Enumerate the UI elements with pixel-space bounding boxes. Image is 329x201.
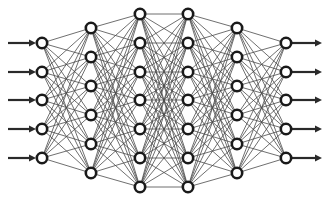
neuron-node (183, 124, 193, 134)
connection-edge (237, 129, 286, 173)
arrow-head-icon (29, 126, 36, 133)
connection-edge (91, 14, 140, 115)
neuron-node (135, 153, 145, 163)
connection-edge (188, 57, 237, 187)
input-arrow (8, 155, 36, 162)
neuron-node (281, 67, 291, 77)
connection-edge (188, 28, 237, 43)
neuron-node (183, 38, 193, 48)
connection-edge (237, 43, 286, 173)
connection-edge (42, 28, 91, 158)
connection-edge (188, 115, 237, 187)
neuron-node (135, 182, 145, 192)
connection-edge (42, 86, 91, 158)
arrow-head-icon (29, 97, 36, 104)
neuron-node (232, 139, 242, 149)
connection-edge (91, 14, 140, 86)
connection-edge (237, 100, 286, 173)
input-arrow (8, 126, 36, 133)
connection-edge (188, 86, 237, 187)
neuron-node (135, 67, 145, 77)
output-layer (281, 38, 291, 163)
output-arrow (292, 97, 322, 104)
neuron-node (183, 9, 193, 19)
arrow-head-icon (315, 40, 322, 47)
neuron-node (86, 168, 96, 178)
neuron-node (86, 52, 96, 62)
connection-edge (42, 144, 91, 158)
input-arrow (8, 97, 36, 104)
neuron-node (135, 38, 145, 48)
neuron-node (86, 23, 96, 33)
neuron-node (37, 67, 47, 77)
neuron-node (183, 67, 193, 77)
arrow-head-icon (315, 69, 322, 76)
connection-edge (188, 28, 237, 187)
connection-edge (237, 43, 286, 57)
connection-edge (91, 14, 140, 28)
connection-edge (91, 173, 140, 187)
neuron-node (232, 110, 242, 120)
neuron-node (135, 95, 145, 105)
neuron-node (135, 124, 145, 134)
connection-edge (188, 28, 237, 158)
neuron-node (183, 95, 193, 105)
connection-edge (91, 43, 140, 173)
neuron-node (281, 38, 291, 48)
arrow-head-icon (315, 126, 322, 133)
input-layer (37, 38, 47, 163)
neuron-node (183, 153, 193, 163)
neuron-node (37, 153, 47, 163)
connection-edge (42, 158, 91, 173)
hidden-layer-1 (86, 23, 96, 178)
connection-edge (237, 43, 286, 115)
neuron-node (37, 38, 47, 48)
connection-edge (42, 28, 91, 43)
neural-network-diagram (0, 0, 329, 201)
neuron-node (232, 52, 242, 62)
hidden-layer-3 (183, 9, 193, 192)
connection-edge (91, 14, 140, 144)
neuron-node (232, 168, 242, 178)
neuron-node (37, 95, 47, 105)
neuron-node (86, 110, 96, 120)
input-arrow (8, 69, 36, 76)
neuron-node (37, 124, 47, 134)
neuron-node (183, 182, 193, 192)
neuron-node (86, 139, 96, 149)
connection-edge (237, 28, 286, 43)
neuron-node (232, 23, 242, 33)
neuron-node (281, 95, 291, 105)
neuron-node (232, 81, 242, 91)
output-arrow (292, 126, 322, 133)
neuron-node (135, 9, 145, 19)
connection-edge (42, 28, 91, 100)
connection-edge (237, 158, 286, 173)
connection-edge (42, 28, 91, 72)
hidden-layer-4 (232, 23, 242, 178)
output-arrow (292, 155, 322, 162)
hidden-layer-2 (135, 9, 145, 192)
neuron-node (281, 153, 291, 163)
connection-edge (91, 158, 140, 173)
neuron-node (281, 124, 291, 134)
input-arrow (8, 40, 36, 47)
connection-edge (188, 14, 237, 28)
arrow-head-icon (29, 155, 36, 162)
arrow-head-icon (29, 40, 36, 47)
arrow-head-icon (29, 69, 36, 76)
output-arrow (292, 40, 322, 47)
connections (42, 14, 286, 187)
arrow-head-icon (315, 155, 322, 162)
connection-edge (188, 173, 237, 187)
connection-edge (42, 57, 91, 158)
output-arrow (292, 69, 322, 76)
arrow-head-icon (315, 97, 322, 104)
neuron-node (86, 81, 96, 91)
